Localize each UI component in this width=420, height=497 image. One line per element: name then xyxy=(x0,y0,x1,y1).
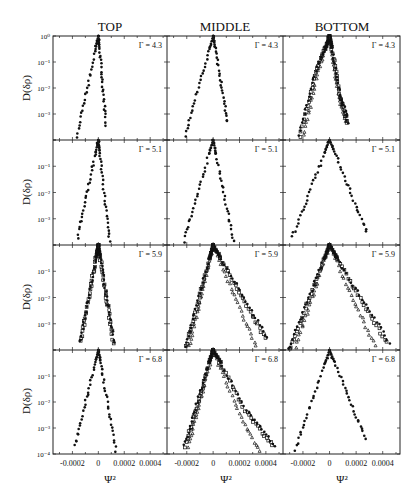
x-tick-label: 0.0002 xyxy=(113,459,135,468)
gamma-label: Γ = 5.9 xyxy=(139,250,162,259)
column-titles: TOP MIDDLE BOTTOM xyxy=(98,19,370,34)
gamma-label: Γ = 5.1 xyxy=(139,145,162,154)
y-tick-label: 10⁻¹ xyxy=(37,373,50,381)
gamma-label: Γ = 6.8 xyxy=(139,355,162,364)
gamma-label: Γ = 6.8 xyxy=(372,355,395,364)
x-axis-label-bottom: Ψ² xyxy=(336,473,348,485)
gamma-label: Γ = 4.3 xyxy=(255,41,278,50)
y-tick-label: 10⁻³ xyxy=(37,321,50,329)
x-tick-label: 0.0004 xyxy=(139,459,161,468)
y-tick-label: 10⁻¹ xyxy=(37,163,50,171)
x-tick-label: 0 xyxy=(96,459,100,468)
column-title-middle: MIDDLE xyxy=(200,19,251,34)
y-axis-labels: D(δρ) D(δρ) D(δρ) D(δρ) xyxy=(20,75,33,414)
x-tick-label: -0.0002 xyxy=(60,459,85,468)
gamma-label: Γ = 4.3 xyxy=(139,41,162,50)
y-axis-label-row3: D(δρ) xyxy=(20,284,33,310)
y-tick-label: 10⁻³ xyxy=(37,111,50,119)
x-tick-label: 0 xyxy=(211,459,215,468)
column-title-top: TOP xyxy=(98,19,122,34)
y-tick-label: 10⁻³ xyxy=(37,216,50,224)
y-tick-label: 10⁻² xyxy=(37,190,50,198)
x-tick-label: 0.0004 xyxy=(255,459,277,468)
x-tick-label: 0.0004 xyxy=(372,459,394,468)
gamma-label: Γ = 4.3 xyxy=(372,41,395,50)
x-tick-label: 0 xyxy=(328,459,332,468)
gamma-label: Γ = 5.9 xyxy=(372,250,395,259)
panel-grid-chart: TOP MIDDLE BOTTOM D(δρ) D(δρ) D(δρ) D(δρ… xyxy=(0,0,420,497)
x-tick-label: 0.0002 xyxy=(345,459,367,468)
column-title-bottom: BOTTOM xyxy=(315,19,370,34)
gamma-label: Γ = 5.9 xyxy=(255,250,278,259)
y-tick-label: 10⁻² xyxy=(37,85,50,93)
gamma-label: Γ = 5.1 xyxy=(255,145,278,154)
x-tick-label: 0.0002 xyxy=(229,459,251,468)
x-axis-labels: Ψ² Ψ² Ψ² xyxy=(104,473,348,485)
data-points xyxy=(73,34,391,453)
y-tick-label: 10⁰ xyxy=(40,33,50,41)
y-tick-label: 10⁻¹ xyxy=(37,59,50,67)
y-axis-label-row1: D(δρ) xyxy=(20,75,33,101)
x-axis-label-top: Ψ² xyxy=(104,473,116,485)
gamma-label: Γ = 5.1 xyxy=(372,145,395,154)
y-tick-label: 10⁻³ xyxy=(37,425,50,433)
y-axis-label-row2: D(δρ) xyxy=(20,179,33,205)
gamma-label: Γ = 6.8 xyxy=(255,355,278,364)
x-tick-label: -0.0002 xyxy=(291,459,316,468)
y-tick-label: 10⁻¹ xyxy=(37,268,50,276)
y-tick-label: 10⁻² xyxy=(37,399,50,407)
y-tick-label: 10⁻² xyxy=(37,295,50,303)
x-axis-label-middle: Ψ² xyxy=(220,473,232,485)
y-axis-label-row4: D(δρ) xyxy=(20,388,33,414)
y-tick-label: 10⁻⁴ xyxy=(37,451,51,459)
x-tick-label: -0.0002 xyxy=(174,459,199,468)
figure: TOP MIDDLE BOTTOM D(δρ) D(δρ) D(δρ) D(δρ… xyxy=(0,0,420,497)
